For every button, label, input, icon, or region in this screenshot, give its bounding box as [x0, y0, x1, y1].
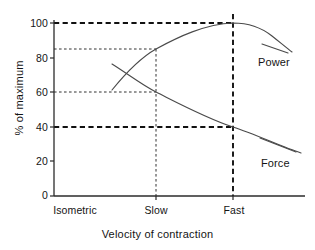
x-tick-label-fast: Fast — [204, 205, 264, 216]
series-label-power: Power — [258, 56, 290, 68]
y-tick-label-40: 40 — [22, 122, 48, 133]
chart-figure: 100 80 60 40 20 0 Isometric Slow Fast Po… — [0, 0, 315, 250]
y-tick-label-60: 60 — [22, 87, 48, 98]
x-tick-label-isometric: Isometric — [38, 205, 112, 216]
x-axis-title: Velocity of contraction — [0, 228, 315, 240]
y-tick-label-100: 100 — [22, 18, 48, 29]
y-axis-title: % of maximum — [13, 38, 25, 158]
x-tick-label-slow: Slow — [126, 205, 186, 216]
y-tick-label-80: 80 — [22, 53, 48, 64]
y-tick-label-0: 0 — [22, 190, 48, 201]
y-tick-label-20: 20 — [22, 156, 48, 167]
series-label-force: Force — [261, 157, 290, 169]
force-leader-line — [260, 138, 296, 152]
series-curve-force — [112, 64, 301, 153]
